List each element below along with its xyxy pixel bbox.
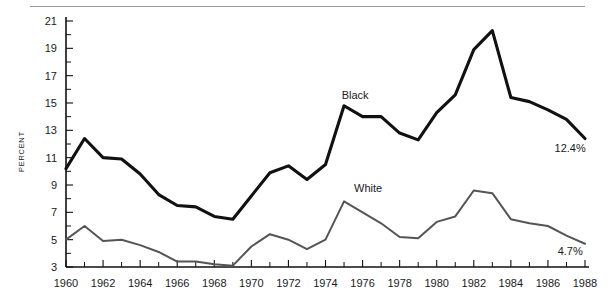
- svg-text:1982: 1982: [462, 277, 486, 289]
- svg-text:5: 5: [51, 234, 57, 246]
- annotation-47: 4.7%: [558, 245, 583, 257]
- svg-text:17: 17: [45, 70, 57, 82]
- series-line-white: [66, 190, 585, 265]
- series-line-black: [66, 31, 585, 220]
- svg-text:19: 19: [45, 42, 57, 54]
- svg-text:13: 13: [45, 124, 57, 136]
- svg-text:1984: 1984: [499, 277, 523, 289]
- svg-text:15: 15: [45, 97, 57, 109]
- svg-text:1988: 1988: [573, 277, 597, 289]
- top-divider-rule: [30, 6, 585, 7]
- y-axis-labels: 3579111315171921: [45, 15, 57, 273]
- unemployment-line-chart: 3579111315171921 19601962196419661968197…: [0, 0, 610, 303]
- svg-text:11: 11: [46, 152, 57, 164]
- svg-text:1966: 1966: [165, 277, 189, 289]
- svg-text:1972: 1972: [276, 277, 300, 289]
- svg-text:1960: 1960: [54, 277, 78, 289]
- svg-text:1980: 1980: [424, 277, 448, 289]
- annotation-white: White: [354, 182, 382, 194]
- svg-text:9: 9: [51, 179, 57, 191]
- y-axis-ticks: [66, 21, 73, 267]
- svg-text:1964: 1964: [128, 277, 152, 289]
- svg-text:1970: 1970: [239, 277, 263, 289]
- annotation-124: 12.4%: [555, 142, 586, 154]
- svg-text:1974: 1974: [313, 277, 337, 289]
- svg-text:1968: 1968: [202, 277, 226, 289]
- chart-figure: 3579111315171921 19601962196419661968197…: [0, 0, 610, 303]
- svg-text:1986: 1986: [536, 277, 560, 289]
- svg-text:1976: 1976: [350, 277, 374, 289]
- svg-text:21: 21: [45, 15, 57, 27]
- x-axis-labels: 1960196219641966196819701972197419761978…: [54, 277, 597, 289]
- x-axis-ticks: [66, 260, 585, 267]
- svg-text:1978: 1978: [387, 277, 411, 289]
- annotation-black: Black: [342, 89, 369, 101]
- chart-annotations: BlackWhite12.4%4.7%: [342, 89, 586, 257]
- svg-text:7: 7: [51, 206, 57, 218]
- series-lines: [66, 31, 585, 266]
- svg-text:1962: 1962: [91, 277, 115, 289]
- svg-text:3: 3: [51, 261, 57, 273]
- y-axis-title: PERCENT: [17, 131, 26, 172]
